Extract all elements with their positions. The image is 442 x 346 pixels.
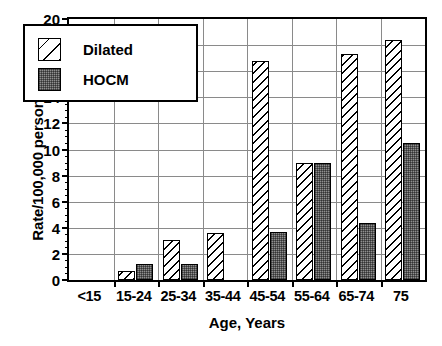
y-tick-major	[62, 149, 69, 151]
x-tick	[114, 280, 116, 287]
y-tick-label: 0	[32, 273, 60, 288]
y-tick-minor	[65, 195, 69, 196]
y-tick-minor	[65, 104, 69, 105]
bar-dilated-65-74	[341, 54, 358, 280]
bar-group	[247, 19, 292, 280]
y-tick-minor	[65, 215, 69, 216]
bar-dilated-55-64	[296, 163, 313, 280]
x-tick	[381, 280, 383, 287]
x-tick-label: 15-24	[116, 288, 152, 304]
bar-hocm-65-74	[359, 223, 376, 280]
y-tick-minor	[65, 267, 69, 268]
chart-legend: Dilated HOCM	[23, 24, 198, 102]
y-tick-label: 10	[32, 142, 60, 157]
bar-hocm-75	[403, 143, 420, 280]
y-tick-minor	[65, 273, 69, 274]
bar-hocm-25-34	[181, 264, 198, 280]
x-tick	[292, 280, 294, 287]
y-tick-minor	[65, 156, 69, 157]
x-tick-label: <15	[77, 288, 101, 304]
y-tick-minor	[65, 247, 69, 248]
bar-group	[203, 19, 248, 280]
y-tick-minor	[65, 169, 69, 170]
bar-chart: Rate/100,000 person-years 02468101214161…	[0, 0, 442, 346]
x-axis-title: Age, Years	[67, 314, 427, 331]
y-tick-label: 2	[32, 246, 60, 261]
bar-group	[336, 19, 381, 280]
bar-dilated-45-54	[252, 61, 269, 280]
y-tick-minor	[65, 136, 69, 137]
y-tick-minor	[65, 130, 69, 131]
legend-swatch-hocm-icon	[38, 68, 61, 91]
y-tick-major	[62, 175, 69, 177]
y-tick-minor	[65, 182, 69, 183]
y-tick-major	[62, 201, 69, 203]
y-tick-minor	[65, 143, 69, 144]
y-tick-minor	[65, 163, 69, 164]
y-tick-major	[62, 279, 69, 281]
bar-dilated-15-24	[118, 271, 135, 280]
y-tick-minor	[65, 117, 69, 118]
bar-dilated-35-44	[207, 233, 224, 280]
x-tick	[203, 280, 205, 287]
x-tick-label: 45-54	[249, 288, 285, 304]
y-tick-label: 4	[32, 220, 60, 235]
legend-swatch-dilated-icon	[38, 38, 61, 61]
x-tick-label: 25-34	[160, 288, 196, 304]
x-tick-label: 55-64	[294, 288, 330, 304]
y-tick-minor	[65, 260, 69, 261]
legend-item-dilated: Dilated	[25, 34, 196, 64]
y-tick-minor	[65, 234, 69, 235]
x-tick-label: 65-74	[338, 288, 374, 304]
bar-dilated-25-34	[163, 240, 180, 280]
x-tick	[158, 280, 160, 287]
bar-dilated-75	[385, 40, 402, 280]
y-tick-label: 6	[32, 194, 60, 209]
x-axis-tick-labels: <1515-2425-3435-4445-5455-6465-7475	[67, 288, 427, 310]
y-tick-label: 8	[32, 168, 60, 183]
x-tick	[336, 280, 338, 287]
bar-hocm-15-24	[136, 264, 153, 280]
y-tick-major	[62, 253, 69, 255]
y-tick-major	[62, 18, 69, 20]
y-tick-minor	[65, 221, 69, 222]
y-tick-minor	[65, 241, 69, 242]
y-tick-label: 12	[32, 116, 60, 131]
y-tick-major	[62, 122, 69, 124]
bar-group	[292, 19, 337, 280]
y-tick-minor	[65, 208, 69, 209]
x-tick	[247, 280, 249, 287]
legend-label-hocm: HOCM	[83, 71, 129, 88]
legend-item-hocm: HOCM	[25, 64, 196, 94]
bar-hocm-45-54	[270, 232, 287, 280]
bar-group	[381, 19, 426, 280]
x-tick-label: 35-44	[205, 288, 241, 304]
y-tick-major	[62, 227, 69, 229]
x-tick-label: 75	[393, 288, 409, 304]
bar-hocm-55-64	[314, 163, 331, 280]
legend-label-dilated: Dilated	[83, 41, 133, 58]
y-tick-minor	[65, 110, 69, 111]
y-tick-minor	[65, 189, 69, 190]
